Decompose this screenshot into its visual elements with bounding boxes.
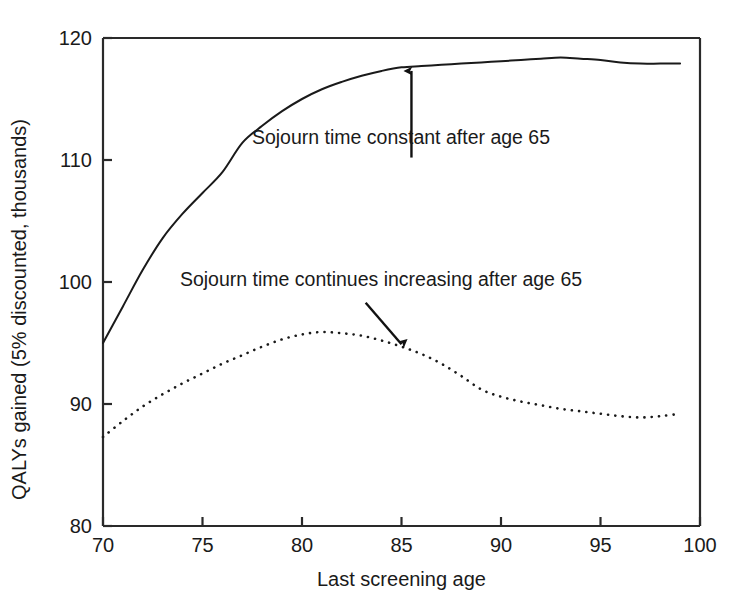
annotation-label-sojourn-increasing: Sojourn time continues increasing after … xyxy=(0,268,734,291)
x-tick-label-100: 100 xyxy=(683,534,716,557)
chart-plot-svg xyxy=(0,0,734,606)
y-tick-label-80: 80 xyxy=(40,515,92,538)
series-line-sojourn-increasing xyxy=(103,332,680,437)
x-tick-label-80: 80 xyxy=(291,534,313,557)
annotation-label-sojourn-constant: Sojourn time constant after age 65 xyxy=(0,126,734,149)
series-line-sojourn-constant xyxy=(103,58,680,343)
chart-annotation-arrows xyxy=(366,71,412,344)
y-tick-label-110: 110 xyxy=(40,149,92,172)
chart-series-layer xyxy=(103,58,680,437)
x-tick-label-95: 95 xyxy=(589,534,611,557)
annotation-arrow-sojourn-increasing xyxy=(366,303,402,344)
chart-figure: 8090100110120 707580859095100 QALYs gain… xyxy=(0,0,734,606)
x-tick-label-75: 75 xyxy=(191,534,213,557)
x-tick-label-70: 70 xyxy=(92,534,114,557)
y-tick-label-90: 90 xyxy=(40,393,92,416)
y-axis-title: QALYs gained (5% discounted, thousands) xyxy=(8,119,31,500)
x-axis-ticks xyxy=(103,517,700,526)
y-tick-label-120: 120 xyxy=(40,27,92,50)
x-tick-label-85: 85 xyxy=(390,534,412,557)
x-tick-label-90: 90 xyxy=(490,534,512,557)
x-axis-title: Last screening age xyxy=(0,568,734,591)
